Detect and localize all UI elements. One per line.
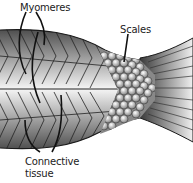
label-connective-tissue-line2: tissue — [25, 168, 53, 179]
fish-body — [0, 28, 135, 151]
label-scales: Scales — [120, 24, 151, 35]
label-connective-tissue-line1: Connective — [25, 156, 79, 167]
label-myomeres: Myomeres — [20, 2, 70, 13]
